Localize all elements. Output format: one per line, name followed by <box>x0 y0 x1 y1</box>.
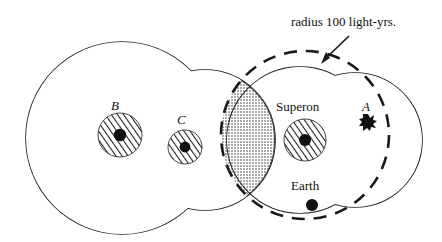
radius-annotation-label: radius 100 light-yrs. <box>291 15 396 28</box>
star-superon-marker <box>284 119 326 161</box>
star-c-marker <box>168 130 202 164</box>
astronomy-diagram: B C Superon A Earth radius 100 light-yrs… <box>0 0 442 242</box>
star-a-label: A <box>362 100 370 113</box>
star-b-label: B <box>111 99 119 112</box>
earth-marker <box>306 199 318 211</box>
star-b-marker <box>98 113 142 157</box>
superon-label: Superon <box>276 100 319 113</box>
diagram-canvas <box>0 0 442 242</box>
radius-annotation-arrow <box>321 36 349 64</box>
earth-label: Earth <box>291 179 319 192</box>
star-c-label: C <box>177 113 186 126</box>
